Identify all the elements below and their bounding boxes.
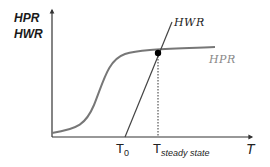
steady-state-label: Tsteady state: [153, 142, 209, 155]
x-axis-label: T: [246, 142, 255, 156]
hwr-line: [125, 22, 172, 137]
hpr-curve-label: HPR: [209, 54, 236, 65]
diagram-canvas: [0, 0, 270, 167]
intersection-point: [155, 50, 161, 56]
hwr-curve-label: HWR: [174, 17, 205, 28]
hpr-curve: [52, 47, 215, 133]
y-axis-label-hwr: HWR: [14, 28, 43, 40]
y-axis-label-hpr: HPR: [14, 12, 39, 24]
t0-label: T0: [116, 142, 129, 155]
